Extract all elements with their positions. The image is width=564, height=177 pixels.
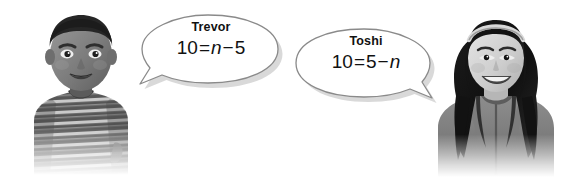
illustration-scene: Trevor 10=n−5 Toshi 10=5−n [0,0,564,177]
photo-boy-striped-shirt [16,3,144,175]
photo-girl-headband-hoodie [424,0,564,177]
speech-bubble-trevor: Trevor 10=n−5 [132,8,284,94]
speech-bubble-toshi: Toshi 10=5−n [296,22,442,108]
